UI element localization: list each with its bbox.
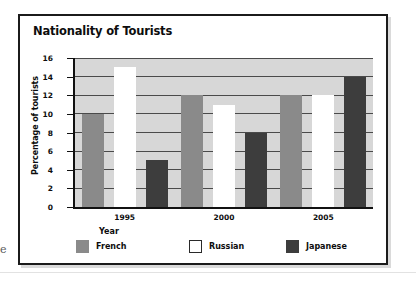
legend-item-french[interactable]: French: [76, 238, 126, 254]
y-axis-tick-label: 16: [31, 54, 53, 63]
chart-title: Nationality of Tourists: [33, 24, 172, 38]
y-axis-tick-mark: [67, 170, 73, 171]
legend-item-russian[interactable]: Russian: [189, 238, 244, 254]
chart-legend: FrenchRussianJapanese: [76, 238, 376, 256]
y-axis-tick-mark: [67, 114, 73, 115]
y-axis-tick-label: 2: [31, 184, 53, 193]
y-axis-tick-label: 6: [31, 147, 53, 156]
bar-japanese-2005: [344, 77, 366, 207]
legend-label: Japanese: [306, 242, 347, 251]
y-axis-tick-mark: [67, 151, 73, 152]
y-axis-tick-label: 12: [31, 91, 53, 100]
page-divider-rule: [0, 272, 416, 273]
bar-russian-2005: [312, 95, 334, 207]
legend-swatch-russian-icon: [189, 240, 202, 253]
bar-russian-1995: [114, 67, 136, 207]
y-axis-tick-label: 8: [31, 128, 53, 137]
legend-item-japanese[interactable]: Japanese: [286, 238, 347, 254]
y-axis-tick-mark: [67, 133, 73, 134]
x-axis-tick-label: 2000: [214, 213, 235, 222]
gridline: [75, 58, 373, 59]
legend-swatch-french-icon: [76, 240, 89, 253]
bar-french-2000: [181, 95, 203, 207]
bar-french-2005: [280, 95, 302, 207]
plot-wrapper: 0246810121416 199520002005 Year: [57, 45, 375, 211]
legend-label: French: [96, 242, 126, 251]
y-axis-tick-mark: [67, 58, 73, 59]
y-axis-tick-label: 4: [31, 165, 53, 174]
y-axis-tick-label: 14: [31, 72, 53, 81]
y-axis-tick-mark: [67, 188, 73, 189]
y-axis-tick-mark: [67, 77, 73, 78]
bar-japanese-1995: [146, 160, 168, 207]
y-axis-tick-label: 10: [31, 109, 53, 118]
page-background: e Nationality of Tourists Percentage of …: [0, 0, 416, 286]
x-axis-tick-label: 2005: [313, 213, 334, 222]
x-axis-title: Year: [99, 227, 119, 236]
bar-french-1995: [82, 114, 104, 207]
chart-figure-frame: Nationality of Tourists Percentage of to…: [18, 14, 388, 265]
x-axis-tick-label: 1995: [114, 213, 135, 222]
y-axis-tick-label: 0: [31, 203, 53, 212]
bar-russian-2000: [213, 105, 235, 207]
y-axis-tick-mark: [67, 207, 73, 208]
edge-cutoff-glyph: e: [0, 243, 8, 257]
legend-swatch-japanese-icon: [286, 240, 299, 253]
y-axis-tick-mark: [67, 95, 73, 96]
bar-japanese-2000: [245, 133, 267, 208]
x-axis-line: [73, 207, 373, 209]
plot-area: [75, 58, 373, 207]
legend-label: Russian: [209, 242, 244, 251]
y-axis-line: [73, 58, 75, 209]
